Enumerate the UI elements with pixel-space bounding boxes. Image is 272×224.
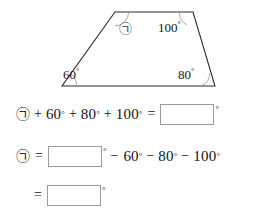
term-80-eq1: 80 <box>81 107 96 122</box>
degree-mark-80-eq2: ° <box>174 152 178 161</box>
minus-operator-2: − <box>146 149 154 163</box>
equation-line-3: = ° <box>0 184 272 206</box>
degree-mark-100-eq1: ° <box>139 110 143 119</box>
degree-mark-80-eq1: ° <box>96 110 100 119</box>
degree-mark-bottom-left: ° <box>76 67 79 76</box>
degree-mark-box-1: ° <box>215 105 219 114</box>
degree-mark-top-right: ° <box>178 20 181 29</box>
trapezoid-svg <box>0 0 272 95</box>
angle-label-bottom-right: 80° <box>178 68 194 81</box>
angle-value-bottom-right: 80 <box>178 67 191 82</box>
angle-value-top-right: 100 <box>158 20 178 35</box>
angle-label-unknown: ㉠ <box>119 22 132 35</box>
answer-box-wrap-3: ° <box>47 185 106 206</box>
degree-mark-100-eq2: ° <box>216 152 220 161</box>
plus-operator-3: + <box>104 107 112 121</box>
term-60-eq1: 60 <box>46 107 61 122</box>
equals-operator-eq3: = <box>34 188 42 202</box>
term-80-eq2: 80 <box>158 149 173 164</box>
degree-mark-box-2: ° <box>103 147 107 156</box>
angle-label-bottom-left: 60° <box>63 68 79 81</box>
degree-mark-60-eq1: ° <box>61 110 65 119</box>
angle-label-top-right: 100° <box>158 21 181 34</box>
equals-operator-eq1: = <box>147 107 155 121</box>
equation-line-2: ㉠ = ° − 60° − 80° − 100° <box>0 145 272 167</box>
term-100-eq2: 100 <box>193 149 216 164</box>
angle-arc-bottom-right <box>201 73 210 87</box>
term-60-eq2: 60 <box>123 149 138 164</box>
unknown-symbol-eq2: ㉠ <box>16 149 30 163</box>
answer-box-1[interactable] <box>160 104 214 125</box>
degree-mark-60-eq2: ° <box>139 152 143 161</box>
answer-box-2[interactable] <box>48 146 102 167</box>
equals-operator-eq2: = <box>35 149 43 163</box>
equation-line-1: ㉠ + 60° + 80° + 100° = ° <box>0 103 272 125</box>
answer-box-3[interactable] <box>47 185 101 206</box>
plus-operator-1: + <box>34 107 42 121</box>
unknown-symbol-eq1: ㉠ <box>16 107 30 121</box>
degree-mark-box-3: ° <box>102 186 106 195</box>
answer-box-wrap-1: ° <box>160 104 219 125</box>
answer-box-wrap-2: ° <box>48 146 107 167</box>
trapezoid-figure: ㉠ 100° 60° 80° <box>0 0 272 95</box>
minus-operator-1: − <box>111 149 119 163</box>
degree-mark-bottom-right: ° <box>191 67 194 76</box>
angle-value-bottom-left: 60 <box>63 67 76 82</box>
plus-operator-2: + <box>69 107 77 121</box>
term-100-eq1: 100 <box>116 107 139 122</box>
minus-operator-3: − <box>181 149 189 163</box>
